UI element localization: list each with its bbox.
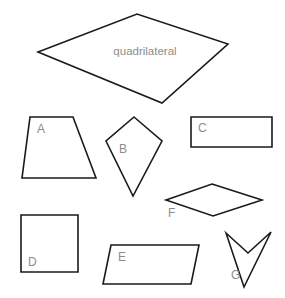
label-e: E <box>118 250 126 264</box>
label-a: A <box>37 122 45 136</box>
shape-f-rhombus <box>166 184 262 216</box>
label-f: F <box>168 206 175 220</box>
shape-quadrilateral-main <box>38 14 228 103</box>
label-d: D <box>28 255 37 269</box>
label-quadrilateral: quadrilateral <box>113 45 176 57</box>
quadrilaterals-figure: quadrilateral A B C D E F G <box>0 0 285 298</box>
label-c: C <box>198 121 207 135</box>
shapes-canvas: quadrilateral A B C D E F G <box>0 0 285 298</box>
shape-b-kite <box>106 117 162 196</box>
shape-a-trapezoid <box>22 117 96 178</box>
label-g: G <box>231 268 240 282</box>
label-b: B <box>119 142 127 156</box>
